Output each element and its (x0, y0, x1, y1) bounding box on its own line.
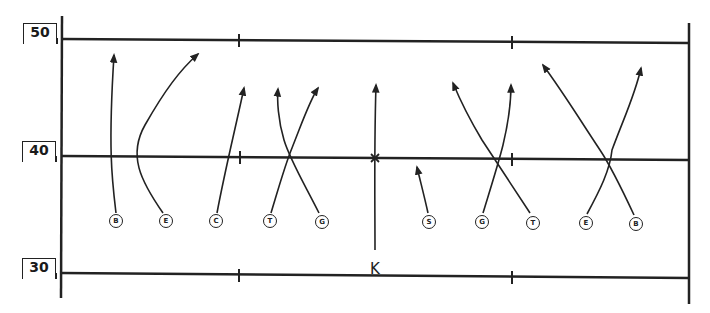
yard-marker-50: 50 (23, 23, 57, 39)
player-e-right: E (579, 216, 593, 230)
player-e-left: E (159, 214, 173, 228)
player-g-right: G (475, 215, 489, 229)
left-sideline (61, 16, 62, 298)
player-g-left: G (315, 215, 329, 229)
player-c: C (209, 214, 223, 228)
player-b-left: B (109, 214, 123, 228)
player-t-right: T (526, 216, 540, 230)
yard-line-50 (62, 39, 689, 43)
player-b-right: B (629, 217, 643, 231)
route-b-right (543, 65, 634, 215)
route-c (217, 88, 244, 213)
yard-marker-40: 40 (22, 141, 56, 157)
route-g-left (278, 89, 319, 213)
route-e-right (587, 68, 641, 214)
route-s (417, 167, 428, 213)
player-t-left: T (263, 214, 277, 228)
route-b-left (111, 55, 116, 213)
route-kicker (375, 85, 376, 250)
football-field (0, 0, 710, 313)
route-t-right (453, 83, 530, 213)
route-e-left (137, 54, 198, 213)
coverage-routes (111, 54, 641, 250)
player-s: S (422, 215, 436, 229)
yard-marker-30: 30 (22, 258, 56, 274)
kicker-label: K (370, 260, 380, 278)
